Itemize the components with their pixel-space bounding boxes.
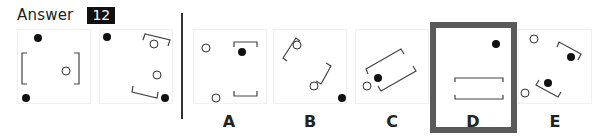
option-d-label[interactable]: D [453,112,493,131]
question-number-badge: 12 [87,7,115,24]
bracket-icon [366,49,404,74]
filled-dot-icon [567,53,575,61]
bracket-icon [316,63,331,84]
panel-1-figure [18,30,92,105]
sequence-panel-1 [17,29,91,104]
filled-dot-icon [103,33,111,41]
option-a-label[interactable]: A [209,112,249,131]
filled-dot-icon [22,94,30,102]
open-circle-icon [150,40,158,48]
open-circle-icon [310,82,318,90]
option-a-panel[interactable] [193,29,267,104]
sequence-panel-2 [99,29,173,104]
filled-dot-icon [338,94,346,102]
right-bracket-icon [74,53,79,84]
open-circle-icon [212,94,220,102]
option-b-panel[interactable] [273,29,347,104]
open-circle-icon [202,44,210,52]
bracket-icon [234,91,257,96]
filled-dot-icon [492,40,500,48]
sequence-divider [181,13,183,119]
option-b-figure [274,30,348,105]
option-e-panel[interactable] [518,29,592,104]
bracket-icon [378,66,416,91]
filled-dot-icon [374,74,382,82]
open-circle-icon [530,35,538,43]
answer-label: Answer [17,6,73,24]
open-circle-icon [363,82,371,90]
open-circle-icon [293,41,301,49]
option-e-figure [519,30,593,105]
answer-header: Answer 12 [17,6,115,24]
bracket-icon [234,42,257,47]
option-c-figure [356,30,430,105]
filled-dot-icon [161,94,169,102]
open-circle-icon [521,89,529,97]
option-c-label[interactable]: C [372,112,412,131]
filled-dot-icon [34,34,42,42]
option-e-label[interactable]: E [535,112,575,131]
option-c-panel[interactable] [355,29,429,104]
filled-dot-icon [544,79,552,87]
option-b-label[interactable]: B [290,112,330,131]
bracket-icon [455,78,503,82]
bracket-icon [455,95,503,99]
bracket-icon [132,86,158,98]
left-bracket-icon [22,53,27,84]
filled-dot-icon [238,48,246,56]
panel-2-figure [100,30,174,105]
option-a-figure [194,30,268,105]
open-circle-icon [62,67,70,75]
open-circle-icon [153,71,161,79]
